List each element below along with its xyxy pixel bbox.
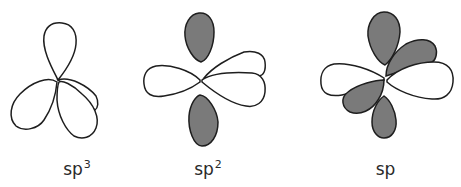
sp-orbital-group (321, 12, 453, 138)
sp3-label-base: sp (63, 159, 83, 179)
sp2-orbital-group (144, 13, 265, 146)
sp3-label: sp3 (63, 158, 91, 179)
sp2-p-lobe-top (185, 13, 214, 62)
sp2-label-base: sp (194, 159, 214, 179)
sp3-orbital-group (11, 23, 98, 138)
sp3-label-superscript: 3 (84, 158, 91, 171)
sp3-lobe-bottom-left (11, 80, 57, 129)
sp2-lobe-right (202, 73, 265, 107)
sp-label-base: sp (376, 159, 396, 179)
sp2-label-superscript: 2 (215, 158, 222, 171)
sp2-p-lobe-bottom (189, 95, 218, 146)
sp2-label: sp2 (194, 158, 222, 179)
sp3-lobe-top (44, 23, 76, 80)
sp2-lobe-left (144, 66, 200, 97)
sp-label: sp (376, 158, 397, 179)
